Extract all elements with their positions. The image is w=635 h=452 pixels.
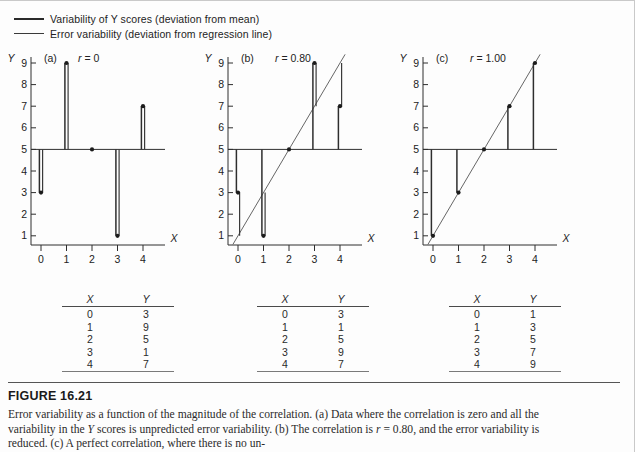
table-cell: 5 xyxy=(505,333,561,346)
legend-item-variability-of-y: Variability of Y scores (deviation from … xyxy=(14,11,272,26)
table-cell: 7 xyxy=(505,346,561,359)
data-point xyxy=(482,147,486,151)
table-column-header: Y xyxy=(505,293,561,307)
y-axis-tick-label: 3 xyxy=(218,186,224,198)
table-cell: 4 xyxy=(62,358,118,371)
figure-caption-block: FIGURE 16.21 Error variability as a func… xyxy=(8,382,620,452)
data-point xyxy=(39,191,43,195)
data-point xyxy=(115,234,119,238)
table-cell: 5 xyxy=(313,333,369,346)
y-axis-tick-label: 6 xyxy=(218,121,224,133)
table-cell: 0 xyxy=(449,307,505,321)
y-axis-tick-label: 3 xyxy=(21,186,27,198)
data-table-a: XY 0319253147 xyxy=(62,293,174,376)
data-table-b: XY 0311253947 xyxy=(257,293,369,376)
panel-letter: (a) xyxy=(44,52,57,64)
y-axis-tick-label: 8 xyxy=(21,78,27,90)
table-column-header: Y xyxy=(118,293,174,307)
x-axis-tick-label: 2 xyxy=(89,253,95,265)
y-axis-tick-label: 1 xyxy=(21,229,27,241)
y-axis-tick-label: 7 xyxy=(218,100,224,112)
table-column-header: X xyxy=(257,293,313,307)
table-row: 13 xyxy=(449,321,561,334)
table-body: 0319253147 xyxy=(62,307,174,372)
table-bottom-rule xyxy=(449,371,561,376)
y-axis-tick-label: 8 xyxy=(413,78,419,90)
plot-panel-c: 987654321Y01234X(c)r = 1.00 xyxy=(400,49,590,279)
table-row: 47 xyxy=(257,358,369,371)
legend-line-thin-icon xyxy=(14,33,44,34)
scatter-plot-a: 987654321Y01234X(a)r = 0 xyxy=(8,49,198,279)
table-cell: 1 xyxy=(505,307,561,321)
y-axis-tick-label: 8 xyxy=(218,78,224,90)
table-row: 03 xyxy=(257,307,369,321)
table-row: 25 xyxy=(257,333,369,346)
table-body: 0311253947 xyxy=(257,307,369,372)
y-axis-tick-label: 5 xyxy=(218,143,224,155)
x-axis-tick-label: 0 xyxy=(235,253,241,265)
table-cell: 2 xyxy=(449,333,505,346)
data-point xyxy=(90,147,94,151)
table-cell: 9 xyxy=(118,321,174,334)
y-axis-tick-label: 1 xyxy=(218,229,224,241)
table-cell: 3 xyxy=(505,321,561,334)
data-point xyxy=(507,104,511,108)
y-axis-tick-label: 9 xyxy=(218,57,224,69)
table-column-header: X xyxy=(62,293,118,307)
figure-caption-text: Error variability as a function of the m… xyxy=(8,408,568,452)
y-axis-tick-label: 5 xyxy=(21,143,27,155)
table-cell: 0 xyxy=(257,307,313,321)
x-axis-title: X xyxy=(169,232,178,244)
table-row: 47 xyxy=(62,358,174,371)
table-row: 31 xyxy=(62,346,174,359)
y-axis-tick-label: 4 xyxy=(218,165,224,177)
x-axis-tick-label: 1 xyxy=(456,253,462,265)
data-point xyxy=(287,147,291,151)
table-cell: 5 xyxy=(118,333,174,346)
table-row: 03 xyxy=(62,307,174,321)
x-axis-tick-label: 4 xyxy=(532,253,538,265)
scatter-plot-b: 987654321Y01234X(b)r = 0.80 xyxy=(205,49,395,279)
x-axis: 01234 xyxy=(31,245,165,265)
table-row: 25 xyxy=(62,333,174,346)
data-point xyxy=(456,191,460,195)
legend: Variability of Y scores (deviation from … xyxy=(14,11,272,41)
data-point xyxy=(312,61,316,65)
plot-panel-a: 987654321Y01234X(a)r = 0 xyxy=(8,49,198,279)
table-cell: 1 xyxy=(313,321,369,334)
figure-page: Variability of Y scores (deviation from … xyxy=(0,0,635,452)
caption-divider xyxy=(8,382,620,383)
table-row: 19 xyxy=(62,321,174,334)
table-cell: 2 xyxy=(62,333,118,346)
y-axis-tick-label: 2 xyxy=(21,208,27,220)
y-axis-tick-label: 7 xyxy=(413,100,419,112)
y-axis: 987654321 xyxy=(21,57,36,245)
table-cell: 0 xyxy=(62,307,118,321)
y-axis-tick-label: 1 xyxy=(413,229,419,241)
table-cell: 4 xyxy=(257,358,313,371)
x-axis-tick-label: 3 xyxy=(312,253,318,265)
table-header-row: XY xyxy=(62,293,174,307)
x-axis-tick-label: 2 xyxy=(286,253,292,265)
table-header-row: XY xyxy=(257,293,369,307)
y-axis-tick-label: 3 xyxy=(413,186,419,198)
x-axis: 01234 xyxy=(423,245,557,265)
legend-item-label: Variability of Y scores (deviation from … xyxy=(50,13,259,25)
y-axis-tick-label: 9 xyxy=(21,57,27,69)
legend-line-thick-icon xyxy=(14,18,44,20)
table-column-header: X xyxy=(449,293,505,307)
x-axis-tick-label: 3 xyxy=(115,253,121,265)
data-point xyxy=(431,234,435,238)
table-row: 01 xyxy=(449,307,561,321)
table-cell: 3 xyxy=(118,307,174,321)
table-column-header: Y xyxy=(313,293,369,307)
table-cell: 1 xyxy=(257,321,313,334)
y-axis-tick-label: 6 xyxy=(413,121,419,133)
x-axis-tick-label: 2 xyxy=(481,253,487,265)
table-cell: 3 xyxy=(449,346,505,359)
y-axis-tick-label: 6 xyxy=(21,121,27,133)
y-axis-title: Y xyxy=(205,52,212,64)
x-axis-tick-label: 1 xyxy=(64,253,70,265)
table-cell: 3 xyxy=(257,346,313,359)
table-row: 39 xyxy=(257,346,369,359)
